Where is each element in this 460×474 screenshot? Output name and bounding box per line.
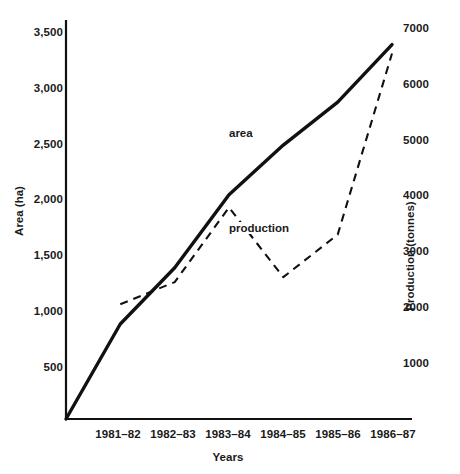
y2-tick-1000: 1000 [403, 358, 429, 370]
series-label-area: area [228, 127, 254, 139]
y2-tick-5000: 5000 [403, 135, 429, 147]
y-tick-3500: 3,500 [34, 27, 63, 39]
chart-figure: 3,500 3,000 2,500 2,000 1,500 1,000 500 … [0, 0, 460, 474]
y-axis-title: Area (ha) [13, 186, 25, 236]
x-tick-1981-82: 1981–82 [95, 429, 140, 441]
x-tick-1985-86: 1985–86 [315, 429, 360, 441]
y-tick-2000: 2,000 [34, 194, 63, 206]
x-tick-1983-84: 1983–84 [205, 429, 250, 441]
y2-tick-6000: 6000 [403, 79, 429, 91]
y2-tick-7000: 7000 [403, 23, 429, 35]
x-axis-title: Years [212, 452, 243, 464]
chart-canvas [0, 0, 460, 474]
y-tick-500: 500 [44, 362, 64, 374]
y-tick-1500: 1,500 [34, 250, 63, 262]
x-tick-1984-85: 1984–85 [260, 429, 305, 441]
x-tick-1986-87: 1986–87 [370, 429, 415, 441]
y-tick-2500: 2,500 [34, 139, 63, 151]
series-line-production [120, 54, 392, 305]
x-tick-1982-83: 1982–83 [150, 429, 195, 441]
y-tick-1000: 1,000 [34, 306, 63, 318]
y2-tick-4000: 4000 [403, 190, 429, 202]
y2-axis-title: Production (tonnes) [404, 201, 416, 310]
series-label-production: production [228, 222, 290, 234]
y-tick-3000: 3,000 [34, 83, 63, 95]
